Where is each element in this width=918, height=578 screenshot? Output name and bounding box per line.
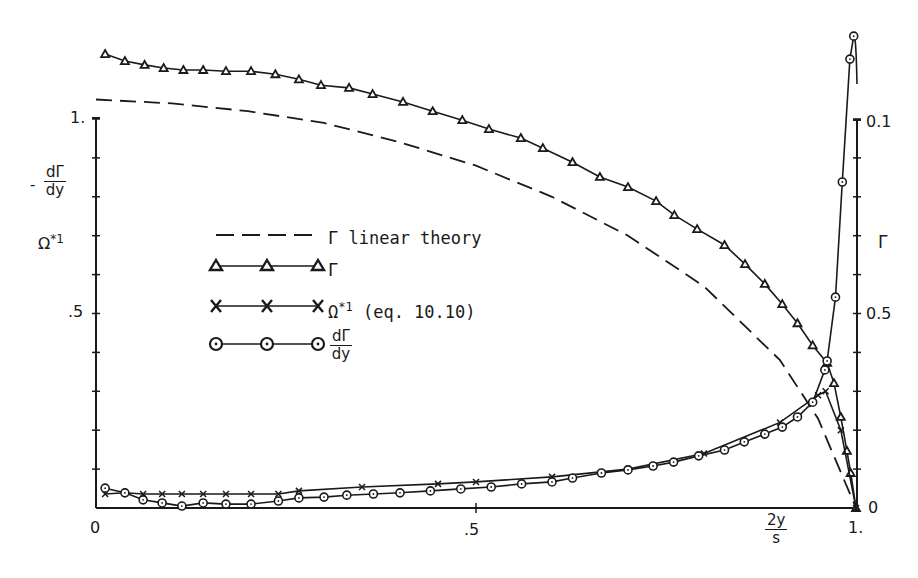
y-right-axis-label: Γ xyxy=(878,232,887,252)
triangle-marker xyxy=(271,70,279,77)
circle-marker-dot xyxy=(572,477,574,479)
circle-marker-dot xyxy=(853,35,855,37)
y-left-label-omega-symbol: Ω xyxy=(38,234,50,253)
legend-circle-dot xyxy=(266,343,269,346)
circle-marker-dot xyxy=(797,416,799,418)
chart-canvas xyxy=(0,0,918,578)
legend-triangle-icon xyxy=(210,260,222,270)
triangle-marker xyxy=(539,144,547,151)
circle-marker-dot xyxy=(652,465,654,467)
circle-marker-dot xyxy=(373,493,375,495)
legend-symbols xyxy=(210,235,324,350)
series-x xyxy=(102,388,859,511)
y-left-label-dgamma-dy: dΓ dy xyxy=(44,164,66,199)
axes xyxy=(92,118,861,513)
circle-marker-dot xyxy=(225,503,227,505)
y-right-tick-label-01: 0.1 xyxy=(866,112,891,131)
legend-omega-sup: *1 xyxy=(338,300,352,314)
circle-marker-dot xyxy=(104,487,106,489)
circle-marker-dot xyxy=(551,481,553,483)
triangle-marker xyxy=(693,225,701,232)
y-left-label-minus: - xyxy=(30,176,35,194)
x-tick-label-1: 1. xyxy=(848,518,863,537)
series-line xyxy=(105,391,856,508)
triangle-marker xyxy=(141,61,149,68)
y-right-tick-label-05: 0.5 xyxy=(866,304,891,323)
triangle-marker xyxy=(458,116,466,123)
circle-marker-dot xyxy=(835,296,837,298)
x-tick-label-0: 0 xyxy=(90,518,100,537)
legend-label-gamma-linear: Γ linear theory xyxy=(328,228,482,248)
circle-marker-dot xyxy=(764,433,766,435)
triangle-marker xyxy=(624,183,632,190)
triangle-marker xyxy=(222,67,230,74)
legend-label-omega: Ω*1 (eq. 10.10) xyxy=(328,300,476,322)
circle-marker-dot xyxy=(826,360,828,362)
circle-marker-dot xyxy=(298,497,300,499)
legend-label-dgamma-dy: dΓ dy xyxy=(330,328,352,363)
triangle-marker xyxy=(399,98,407,105)
triangle-marker xyxy=(247,67,255,74)
circle-marker-dot xyxy=(161,502,163,504)
circle-marker-dot xyxy=(841,181,843,183)
legend-dgamma-num: dΓ xyxy=(330,328,352,346)
triangle-marker xyxy=(517,134,525,141)
legend-label-gamma: Γ xyxy=(328,260,338,280)
circle-marker-dot xyxy=(142,499,144,501)
circle-marker-dot xyxy=(181,505,183,507)
circle-marker-dot xyxy=(743,441,745,443)
circle-marker-dot xyxy=(698,455,700,457)
x-axis-label-den: s xyxy=(772,530,780,547)
y-left-label-omega: Ω*1 xyxy=(38,232,64,253)
triangle-marker xyxy=(199,66,207,73)
circle-marker-dot xyxy=(323,496,325,498)
triangle-marker xyxy=(596,173,604,180)
triangle-marker xyxy=(317,81,325,88)
legend-triangle-icon xyxy=(312,260,324,270)
circle-marker-dot xyxy=(399,492,401,494)
circle-marker-dot xyxy=(430,490,432,492)
triangle-marker xyxy=(569,158,577,165)
circle-marker-dot xyxy=(812,401,814,403)
circle-marker-dot xyxy=(849,58,851,60)
triangle-marker xyxy=(837,413,845,420)
triangle-marker xyxy=(101,50,109,57)
series-none xyxy=(96,100,856,509)
triangle-marker xyxy=(295,75,303,82)
series xyxy=(96,32,860,511)
legend-omega-eq: (eq. 10.10) xyxy=(353,302,476,322)
triangle-marker xyxy=(345,84,353,91)
triangle-marker xyxy=(369,90,377,97)
circle-marker-dot xyxy=(781,426,783,428)
legend-circle-dot xyxy=(317,343,320,346)
triangle-marker xyxy=(429,107,437,114)
triangle-marker xyxy=(179,66,187,73)
circle-marker-dot xyxy=(346,494,348,496)
circle-marker-dot xyxy=(460,488,462,490)
triangle-marker xyxy=(485,125,493,132)
y-left-label-num: dΓ xyxy=(44,164,66,182)
y-right-tick-label-0: 0 xyxy=(868,498,878,517)
x-axis-label-2y-over-s: 2y s xyxy=(765,512,787,547)
legend-omega-symbol: Ω xyxy=(328,302,338,322)
circle-marker-dot xyxy=(601,472,603,474)
circle-marker-dot xyxy=(124,492,126,494)
y-left-label-den: dy xyxy=(46,182,64,199)
legend-triangle-icon xyxy=(261,260,273,270)
circle-marker-dot xyxy=(627,469,629,471)
triangle-marker xyxy=(160,64,168,71)
circle-marker-dot xyxy=(673,461,675,463)
y-left-tick-label-1: 1. xyxy=(70,108,85,127)
dashed-line xyxy=(96,100,856,509)
circle-marker-dot xyxy=(202,502,204,504)
y-left-label-omega-sup: *1 xyxy=(50,232,64,246)
y-left-tick-label-05: .5 xyxy=(68,302,83,321)
circle-marker-dot xyxy=(278,500,280,502)
triangle-marker xyxy=(121,57,129,64)
triangle-marker xyxy=(830,379,838,386)
x-tick-label-05: .5 xyxy=(464,520,479,539)
circle-marker-dot xyxy=(824,369,826,371)
circle-marker-dot xyxy=(250,503,252,505)
circle-marker-dot xyxy=(724,449,726,451)
legend-dgamma-den: dy xyxy=(332,346,350,363)
